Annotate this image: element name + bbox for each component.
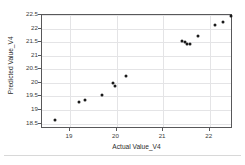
x-axis-tick-label: 19 bbox=[65, 133, 72, 139]
y-axis-tick-label: 18.5 bbox=[26, 119, 38, 125]
data-point bbox=[113, 85, 116, 88]
x-axis-title: Actual Value_V4 bbox=[41, 144, 232, 151]
gridline-vertical bbox=[210, 15, 211, 127]
gridline-vertical bbox=[163, 15, 164, 127]
y-axis-title: Predicted Value_V4 bbox=[8, 10, 15, 120]
scatter-chart: 18.51919.52020.52121.52222.5 19202122 Ac… bbox=[0, 0, 245, 165]
y-axis-tick-mark bbox=[38, 95, 41, 96]
x-axis-tick-label: 20 bbox=[112, 133, 119, 139]
y-axis-tick-mark bbox=[38, 123, 41, 124]
gridline-vertical bbox=[117, 15, 118, 127]
figure-divider bbox=[4, 155, 241, 156]
data-point bbox=[214, 24, 217, 27]
y-axis-tick-mark bbox=[38, 41, 41, 42]
data-point bbox=[189, 42, 192, 45]
y-axis-tick-mark bbox=[38, 68, 41, 69]
plot-area bbox=[41, 14, 232, 128]
y-axis-tick-mark bbox=[38, 14, 41, 15]
data-point bbox=[101, 93, 104, 96]
y-axis-tick-label: 21 bbox=[31, 52, 38, 58]
x-axis-tick-label: 21 bbox=[159, 133, 166, 139]
y-axis-tick-mark bbox=[38, 28, 41, 29]
x-axis-tick-labels: 19202122 bbox=[0, 133, 245, 143]
x-axis-tick-mark bbox=[162, 128, 163, 131]
x-axis-tick-label: 22 bbox=[205, 133, 212, 139]
data-point bbox=[221, 20, 224, 23]
y-axis-tick-label: 21.5 bbox=[26, 38, 38, 44]
y-axis-tick-label: 22 bbox=[31, 24, 38, 30]
y-axis-tick-label: 22.5 bbox=[26, 11, 38, 17]
y-axis-tick-mark bbox=[38, 109, 41, 110]
y-axis-tick-label: 20 bbox=[31, 79, 38, 85]
y-axis-tick-label: 20.5 bbox=[26, 65, 38, 71]
y-axis-tick-mark bbox=[38, 55, 41, 56]
x-axis-tick-mark bbox=[116, 128, 117, 131]
data-point bbox=[83, 98, 86, 101]
y-axis-tick-label: 19 bbox=[31, 106, 38, 112]
x-axis-tick-mark bbox=[209, 128, 210, 131]
data-point bbox=[78, 100, 81, 103]
x-axis-tick-mark bbox=[69, 128, 70, 131]
data-point bbox=[229, 14, 232, 17]
data-point bbox=[124, 74, 127, 77]
gridline-vertical bbox=[70, 15, 71, 127]
data-point bbox=[54, 119, 57, 122]
data-point bbox=[196, 35, 199, 38]
y-axis-tick-mark bbox=[38, 82, 41, 83]
y-axis-tick-label: 19.5 bbox=[26, 92, 38, 98]
